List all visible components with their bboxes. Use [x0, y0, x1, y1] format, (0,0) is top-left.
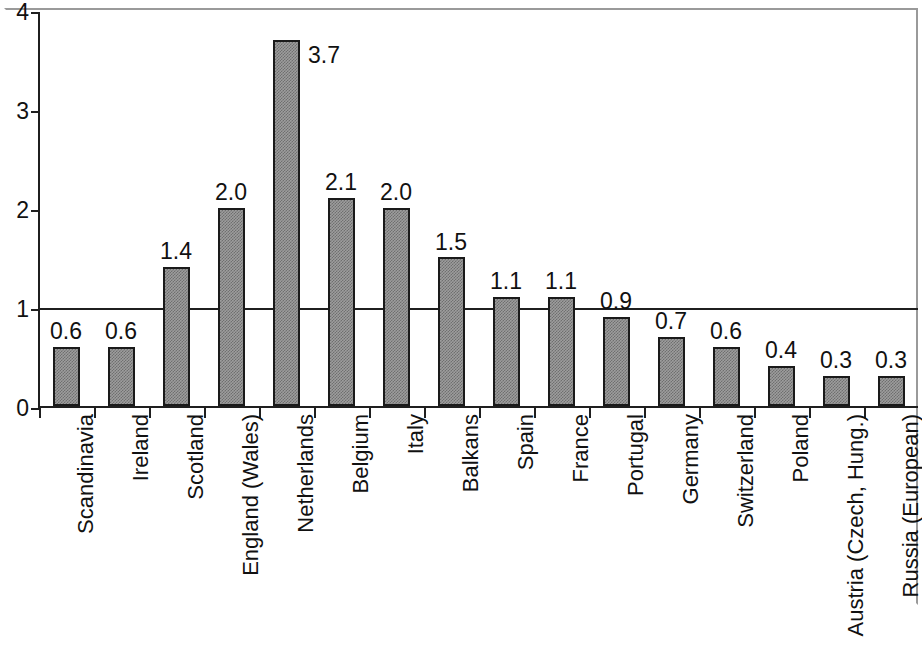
category-label-ireland: Ireland: [130, 414, 152, 481]
bar-value-label: 0.6: [40, 320, 92, 343]
bar-chart: 01234 0.60.61.42.03.72.12.01.51.11.10.90…: [0, 0, 922, 648]
bar-value-label: 0.4: [755, 339, 807, 362]
y-tick-label: 4: [16, 1, 29, 24]
y-tick-label: 3: [16, 100, 29, 123]
category-label-austria-czech-hung: Austria (Czech, Hung.): [845, 414, 867, 637]
bar: [548, 297, 575, 406]
category-label-poland: Poland: [790, 414, 812, 483]
category-label-text: Spain: [515, 414, 537, 470]
bar-value-label: 2.0: [205, 181, 257, 204]
category-label-text: England (Wales): [240, 414, 262, 576]
category-label-england-wales: England (Wales): [240, 414, 262, 576]
bar: [438, 257, 465, 406]
y-tick-mark: [31, 111, 40, 113]
bar: [383, 208, 410, 406]
bar: [163, 267, 190, 406]
bar: [768, 366, 795, 406]
bar: [878, 376, 905, 406]
category-label-text: Portugal: [625, 414, 647, 496]
category-label-text: Belgium: [350, 414, 372, 493]
category-label-text: Ireland: [130, 414, 152, 481]
bar-value-label: 1.5: [425, 231, 477, 254]
bar-value-label: 0.6: [700, 320, 752, 343]
bar: [493, 297, 520, 406]
category-label-spain: Spain: [515, 414, 537, 470]
category-label-scotland: Scotland: [185, 414, 207, 500]
category-label-scandinavia: Scandinavia: [75, 414, 97, 534]
bar: [273, 40, 300, 406]
bar-value-label: 1.1: [535, 270, 587, 293]
bar-value-label: 0.7: [645, 310, 697, 333]
y-tick-mark: [31, 309, 40, 311]
bar-value-label: 0.9: [590, 290, 642, 313]
category-label-netherlands: Netherlands: [295, 414, 317, 533]
y-tick-mark: [31, 210, 40, 212]
category-label-text: Poland: [790, 414, 812, 483]
y-tick-label: 2: [16, 199, 29, 222]
bar-value-label: 0.3: [810, 349, 862, 372]
plot-area: 01234 0.60.61.42.03.72.12.01.51.11.10.90…: [38, 12, 918, 408]
bar: [218, 208, 245, 406]
category-label-belgium: Belgium: [350, 414, 372, 493]
bar-value-label: 2.0: [370, 181, 422, 204]
bar: [823, 376, 850, 406]
bar-value-label: 1.1: [480, 270, 532, 293]
category-label-switzerland: Switzerland: [735, 414, 757, 528]
category-label-text: Austria (Czech, Hung.): [845, 414, 867, 637]
category-label-france: France: [570, 414, 592, 482]
category-label-germany: Germany: [680, 414, 702, 504]
bar-value-label: 2.1: [315, 171, 367, 194]
category-label-text: Scandinavia: [75, 414, 97, 534]
category-label-text: Germany: [680, 414, 702, 504]
bar-value-label: 0.6: [95, 320, 147, 343]
bar: [328, 198, 355, 406]
category-label-balkans: Balkans: [460, 414, 482, 492]
bar: [603, 317, 630, 406]
y-tick-label: 0: [16, 397, 29, 420]
bar: [658, 337, 685, 406]
category-label-text: Scotland: [185, 414, 207, 500]
bar: [53, 347, 80, 406]
category-label-text: Italy: [405, 414, 427, 454]
category-axis-labels: ScandinaviaIrelandScotlandEngland (Wales…: [38, 414, 918, 648]
y-tick-label: 1: [16, 298, 29, 321]
category-label-text: Russia (European): [900, 414, 922, 597]
category-label-text: Netherlands: [295, 414, 317, 533]
category-label-text: Switzerland: [735, 414, 757, 528]
category-label-text: France: [570, 414, 592, 482]
bar-value-label: 0.3: [865, 349, 917, 372]
bar: [713, 347, 740, 406]
category-label-portugal: Portugal: [625, 414, 647, 496]
bar-value-label: 1.4: [150, 240, 202, 263]
y-tick-mark: [31, 12, 40, 14]
bar: [108, 347, 135, 406]
category-label-russia-european: Russia (European): [900, 414, 922, 597]
category-label-text: Balkans: [460, 414, 482, 492]
x-axis-line: [38, 406, 918, 408]
category-label-italy: Italy: [405, 414, 427, 454]
bar-value-label: 3.7: [308, 44, 356, 67]
